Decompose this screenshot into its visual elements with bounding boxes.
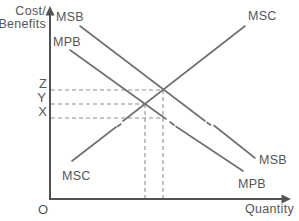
msc-curve-lower-segment	[72, 127, 116, 161]
msb-label-top: MSB	[56, 10, 84, 24]
externality-diagram: Cost/ Benefits Quantity O Z Y X MSB MPB …	[0, 0, 299, 221]
msb-label-right: MSB	[259, 153, 287, 167]
x-axis-title: Quantity	[245, 202, 294, 216]
y-axis-title-line2: Benefits	[0, 17, 46, 31]
price-marker-x: X	[38, 104, 47, 119]
price-marker-z: Z	[39, 76, 47, 91]
msc-label-top: MSC	[248, 9, 277, 23]
y-axis-arrowhead	[46, 6, 55, 16]
y-axis-title-line1: Cost/	[15, 4, 46, 18]
mpb-curve-break-tick	[170, 122, 174, 125]
mpb-label-right: MPB	[238, 177, 266, 191]
mpb-curve-lower-segment	[176, 127, 243, 172]
mpb-curve-upper-segment	[70, 50, 166, 119]
msc-curve-break-tick	[118, 124, 122, 127]
diagram-canvas: Cost/ Benefits Quantity O Z Y X MSB MPB …	[0, 0, 299, 221]
price-marker-y: Y	[37, 90, 46, 105]
msb-curve-lower-segment	[214, 126, 255, 159]
msb-curve-break-tick	[207, 123, 211, 126]
origin-label: O	[38, 202, 48, 217]
mpb-label-top: MPB	[53, 35, 81, 49]
msc-label-bottom: MSC	[62, 169, 91, 183]
